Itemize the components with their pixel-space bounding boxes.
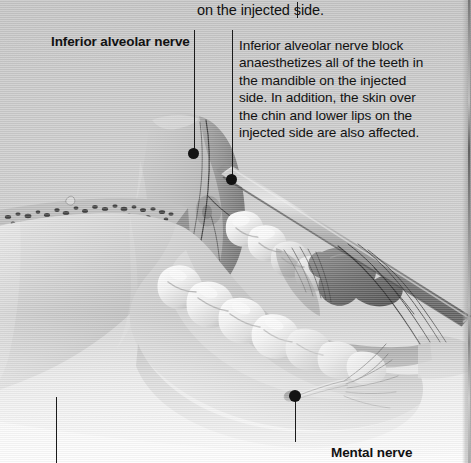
- mental-nerve-leader: [295, 397, 296, 442]
- label-mental-nerve: Mental nerve: [331, 444, 412, 461]
- note-leader-dot: [226, 174, 237, 185]
- page-fade: [0, 313, 471, 463]
- label-inferior-alveolar-nerve: Inferior alveolar nerve: [51, 33, 190, 50]
- lower-left-leader: [56, 397, 57, 463]
- mental-nerve-leader-dot: [289, 390, 301, 402]
- page-edge-line: [468, 0, 470, 463]
- note-inferior-alveolar-nerve-block: Inferior alveolar nerve blockanaesthetiz…: [239, 37, 435, 141]
- note-body: anaesthetizes all of the teeth in the ma…: [239, 55, 423, 140]
- inferior-alveolar-nerve-leader: [194, 30, 195, 155]
- carryover-text: on the injected side.: [197, 1, 324, 20]
- figure-page: on the injected side. Inferior alveolar …: [0, 0, 471, 463]
- inferior-alveolar-nerve-leader-dot: [188, 148, 199, 159]
- note-leader: [232, 30, 233, 181]
- note-heading: Inferior alveolar nerve block: [239, 37, 435, 54]
